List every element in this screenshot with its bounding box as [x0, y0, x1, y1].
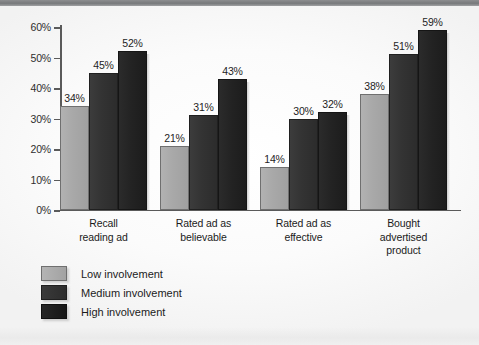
category-label-2: Rated ad asbelievable: [148, 217, 259, 244]
chart-figure: 0%10%20%30%40%50%60% 34%45%52%21%31%43%1…: [0, 0, 479, 345]
bar-fill: [218, 79, 247, 210]
legend-swatch-low: [41, 266, 67, 281]
bar-fill: [189, 115, 218, 210]
bar-high-2: 43%: [218, 79, 247, 210]
category-label-line: Rated ad as: [248, 217, 359, 231]
bar-fill: [418, 30, 447, 210]
bar-value-label: 38%: [364, 80, 384, 92]
bar-low-4: 38%: [360, 94, 389, 210]
bar-fill: [89, 73, 118, 210]
bar-value-label: 32%: [322, 98, 342, 110]
bar-group-3: 14%30%32%: [260, 27, 347, 210]
category-label-line: reading ad: [48, 231, 159, 245]
bar-value-label: 59%: [422, 16, 442, 28]
bar-value-label: 21%: [164, 132, 184, 144]
plot-area: 0%10%20%30%40%50%60% 34%45%52%21%31%43%1…: [60, 27, 460, 210]
bar-value-label: 52%: [122, 37, 142, 49]
bar-high-3: 32%: [318, 112, 347, 210]
legend: Low involvementMedium involvementHigh in…: [41, 264, 182, 321]
bar-fill: [389, 54, 418, 210]
bar-low-1: 34%: [60, 106, 89, 210]
legend-item-low[interactable]: Low involvement: [41, 264, 182, 283]
bar-medium-3: 30%: [289, 119, 318, 211]
category-label-line: Bought: [348, 217, 459, 231]
bar-group-1: 34%45%52%: [60, 27, 147, 210]
y-tick-label: 60%: [31, 21, 51, 33]
bar-group-4: 38%51%59%: [360, 27, 447, 210]
category-label-line: effective: [248, 231, 359, 245]
bar-value-label: 31%: [193, 101, 213, 113]
bar-low-2: 21%: [160, 146, 189, 210]
legend-label: High involvement: [81, 306, 165, 318]
bar-value-label: 30%: [293, 105, 313, 117]
bar-value-label: 34%: [64, 92, 84, 104]
bar-fill: [118, 51, 147, 210]
bar-low-3: 14%: [260, 167, 289, 210]
legend-label: Low involvement: [81, 268, 163, 280]
bar-fill: [318, 112, 347, 210]
bar-medium-1: 45%: [89, 73, 118, 210]
y-tick-label: 10%: [31, 174, 51, 186]
category-label-4: Boughtadvertisedproduct: [348, 217, 459, 258]
page-bottom-smudge: [0, 327, 479, 345]
bar-value-label: 43%: [222, 65, 242, 77]
y-tick-label: 40%: [31, 82, 51, 94]
bar-medium-2: 31%: [189, 115, 218, 210]
legend-item-high[interactable]: High involvement: [41, 302, 182, 321]
legend-item-medium[interactable]: Medium involvement: [41, 283, 182, 302]
bar-fill: [289, 119, 318, 211]
y-tick-mark: [54, 210, 60, 212]
bar-fill: [260, 167, 289, 210]
category-label-line: believable: [148, 231, 259, 245]
category-label-line: Recall: [48, 217, 159, 231]
category-label-line: Rated ad as: [148, 217, 259, 231]
bar-value-label: 51%: [393, 40, 413, 52]
bar-high-4: 59%: [418, 30, 447, 210]
y-tick-label: 50%: [31, 52, 51, 64]
bar-fill: [360, 94, 389, 210]
legend-swatch-high: [41, 304, 67, 319]
bar-high-1: 52%: [118, 51, 147, 210]
bar-group-2: 21%31%43%: [160, 27, 247, 210]
y-tick-label: 20%: [31, 143, 51, 155]
bar-fill: [160, 146, 189, 210]
category-label-3: Rated ad aseffective: [248, 217, 359, 244]
bar-value-label: 45%: [93, 59, 113, 71]
bar-medium-4: 51%: [389, 54, 418, 210]
y-tick-label: 30%: [31, 113, 51, 125]
legend-swatch-medium: [41, 285, 67, 300]
category-label-line: product: [348, 244, 459, 258]
bar-value-label: 14%: [264, 153, 284, 165]
category-label-1: Recallreading ad: [48, 217, 159, 244]
legend-label: Medium involvement: [81, 287, 182, 299]
page-gutter-band: [0, 0, 479, 6]
y-tick-label: 0%: [36, 204, 51, 216]
bar-fill: [60, 106, 89, 210]
category-label-line: advertised: [348, 231, 459, 245]
